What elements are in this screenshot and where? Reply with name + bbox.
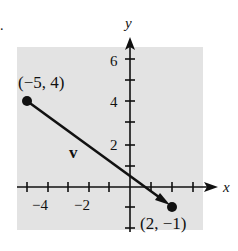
- x-axis-label: x: [222, 179, 230, 195]
- y-tick-6: 6: [110, 53, 118, 69]
- x-tick-neg2: −2: [74, 197, 90, 213]
- y-axis-label: y: [123, 15, 132, 31]
- start-point-label: (−5, 4): [18, 73, 64, 92]
- y-tick-2: 2: [110, 137, 118, 153]
- end-point-dot: [167, 202, 177, 212]
- vector-label: v: [69, 143, 78, 162]
- end-point-label: (2, −1): [140, 214, 186, 233]
- start-point-dot: [22, 96, 32, 106]
- y-tick-4: 4: [110, 94, 118, 110]
- x-tick-neg4: −4: [32, 197, 48, 213]
- bullet-mark: .: [0, 18, 4, 33]
- vector-diagram: . x y 6 4 2 −4 −2 v (−5, 4) (2, −1): [0, 0, 238, 251]
